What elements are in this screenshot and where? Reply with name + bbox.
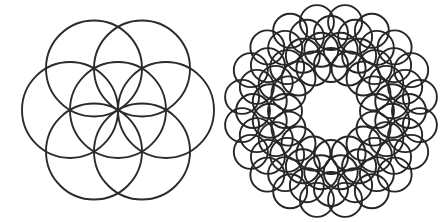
circle-patterns-svg — [0, 0, 444, 222]
figure-canvas — [0, 0, 444, 222]
